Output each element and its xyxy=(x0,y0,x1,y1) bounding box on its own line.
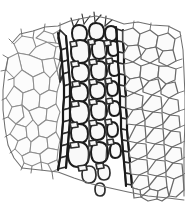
right-cell-group xyxy=(123,28,183,191)
figure-root: Plant tissue cross-section stem cross-se… xyxy=(0,0,185,221)
tissue-cross-section-drawing xyxy=(0,0,185,221)
